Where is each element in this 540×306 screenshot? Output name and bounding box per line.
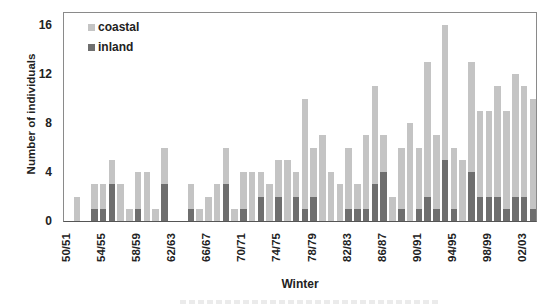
bar-67-68 [214, 184, 221, 221]
inland-swatch-icon [88, 44, 95, 51]
bar-inland-segment [363, 209, 370, 221]
x-tick-label: 58/59 [130, 233, 142, 262]
bar-54-55 [100, 184, 107, 221]
bar-inland-segment [100, 209, 107, 221]
bar-93-94 [442, 25, 449, 221]
bar-51-52 [74, 197, 81, 222]
bar-inland-segment [521, 197, 528, 222]
bar-inland-segment [380, 172, 387, 221]
x-tick-label: 62/63 [165, 233, 177, 262]
bar-inland-segment [161, 184, 168, 221]
x-tick-label: 54/55 [95, 233, 107, 262]
bar-inland-segment [372, 184, 379, 221]
bar-74-75 [275, 160, 282, 221]
x-tick-label: 86/87 [376, 233, 388, 262]
bar-68-69 [223, 148, 230, 222]
bar-inland-segment [398, 209, 405, 221]
bar-75-76 [284, 160, 291, 221]
plot-area: coastal inland [63, 12, 537, 222]
bar-inland-segment [451, 209, 458, 221]
bar-70-71 [240, 172, 247, 221]
bar-inland-segment [345, 209, 352, 221]
bar-inland-segment [223, 184, 230, 221]
bar-02-03 [521, 86, 528, 221]
bar-59-60 [144, 172, 151, 221]
bar-inland-segment [486, 197, 493, 222]
bar-77-78 [302, 99, 309, 222]
bar-73-74 [266, 184, 273, 221]
bar-inland-segment [109, 184, 116, 221]
bar-76-77 [293, 172, 300, 221]
bar-58-59 [135, 172, 142, 221]
bar-inland-segment [310, 197, 317, 222]
legend: coastal inland [88, 17, 139, 57]
x-tick-label: 98/99 [481, 233, 493, 262]
bar-inland-segment [416, 209, 423, 221]
bar-56-57 [117, 184, 124, 221]
bar-79-80 [319, 135, 326, 221]
bar-98-99 [486, 111, 493, 221]
bar-91-92 [424, 62, 431, 221]
bar-95-96 [459, 160, 466, 221]
bar-84-85 [363, 135, 370, 221]
bar-60-61 [152, 209, 159, 221]
bar-69-70 [231, 209, 238, 221]
bar-61-62 [161, 148, 168, 222]
bar-86-87 [380, 135, 387, 221]
bar-99-00 [494, 86, 501, 221]
cropped-caption [180, 300, 440, 304]
bar-96-97 [468, 62, 475, 221]
x-tick-label: 90/91 [411, 233, 423, 262]
bar-inland-segment [258, 197, 265, 222]
bar-78-79 [310, 148, 317, 222]
bar-80-81 [328, 172, 335, 221]
bar-inland-segment [91, 209, 98, 221]
bar-inland-segment [477, 197, 484, 222]
bar-inland-segment [302, 209, 309, 221]
bar-97-98 [477, 111, 484, 221]
bar-inland-segment [503, 209, 510, 221]
coastal-swatch-icon [88, 24, 95, 31]
bar-00-01 [503, 111, 510, 221]
y-tick-label: 16 [0, 18, 52, 32]
bar-88-89 [398, 148, 405, 222]
y-tick-label: 4 [0, 165, 52, 179]
bar-53-54 [91, 184, 98, 221]
legend-item-inland: inland [88, 37, 139, 57]
bar-55-56 [109, 160, 116, 221]
bar-87-88 [389, 197, 396, 222]
bar-85-86 [372, 86, 379, 221]
x-tick-label: 74/75 [270, 233, 282, 262]
legend-item-coastal: coastal [88, 17, 139, 37]
bar-90-91 [416, 148, 423, 222]
y-tick-label: 8 [0, 116, 52, 130]
bar-94-95 [451, 148, 458, 222]
x-tick-label: 78/79 [306, 233, 318, 262]
bar-inland-segment [188, 209, 195, 221]
bar-66-67 [205, 197, 212, 222]
bar-inland-segment [240, 209, 247, 221]
bar-03-04 [530, 99, 537, 222]
bar-inland-segment [433, 209, 440, 221]
bar-81-82 [337, 184, 344, 221]
bar-inland-segment [354, 209, 361, 221]
x-tick-label: 70/71 [235, 233, 247, 262]
bar-72-73 [258, 172, 265, 221]
x-tick-label: 02/03 [516, 233, 528, 262]
bar-inland-segment [135, 209, 142, 221]
x-axis-title: Winter [200, 277, 400, 291]
bar-inland-segment [442, 160, 449, 221]
x-tick-label: 50/51 [60, 233, 72, 262]
bar-82-83 [345, 148, 352, 222]
bar-92-93 [433, 135, 440, 221]
bar-64-65 [188, 184, 195, 221]
bar-inland-segment [275, 197, 282, 222]
y-tick-label: 12 [0, 67, 52, 81]
bar-83-84 [354, 184, 361, 221]
bar-inland-segment [293, 197, 300, 222]
bar-89-90 [407, 123, 414, 221]
bar-01-02 [512, 74, 519, 221]
bar-inland-segment [530, 209, 537, 221]
bar-inland-segment [424, 197, 431, 222]
legend-label-coastal: coastal [98, 20, 139, 34]
